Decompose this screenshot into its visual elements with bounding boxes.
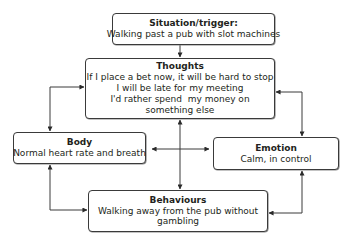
arrow-thoughts-body: [50, 87, 84, 131]
arrow-body-behaviours: [50, 165, 87, 210]
thoughts-line-1: If I place a bet now, it will be hard to…: [87, 72, 274, 83]
behaviours-title: Behaviours: [150, 195, 207, 206]
emotion-title: Emotion: [255, 143, 297, 154]
thoughts-line-3: I'd rather spend my money on: [110, 94, 249, 105]
behaviours-text: Walking away from the pub without gambli…: [93, 206, 263, 228]
arrow-thoughts-emotion: [276, 92, 302, 136]
emotion-box: Emotion Calm, in control: [213, 137, 339, 170]
body-box: Body Normal heart rate and breath: [13, 132, 146, 164]
emotion-text: Calm, in control: [240, 154, 311, 165]
thoughts-title: Thoughts: [156, 61, 204, 72]
thoughts-line-4: something else: [146, 105, 215, 116]
thoughts-box: Thoughts If I place a bet now, it will b…: [85, 58, 275, 119]
body-text: Normal heart rate and breath: [13, 148, 146, 159]
body-title: Body: [67, 137, 92, 148]
situation-trigger-box: Situation/trigger: Walking past a pub wi…: [112, 13, 275, 45]
situation-text: Walking past a pub with slot machines: [107, 29, 280, 40]
behaviours-box: Behaviours Walking away from the pub wit…: [88, 190, 268, 232]
situation-title: Situation/trigger:: [149, 18, 237, 29]
arrow-emotion-behaviours: [269, 171, 302, 213]
thoughts-line-2: I will be late for my meeting: [117, 83, 244, 94]
